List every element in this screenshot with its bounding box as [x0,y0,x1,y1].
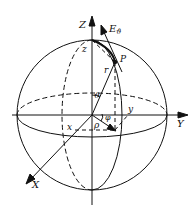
label-X-axis: X [31,179,40,190]
label-E-sub: ϑ [116,28,121,36]
label-Y-axis: Y [177,118,185,129]
label-theta: ϑ [94,91,100,100]
label-x: x [67,122,72,132]
x-axis [30,115,92,180]
spherical-coordinates-diagram: Z Eϑ z P r ϑ y φ ρ x Y X [0,0,195,215]
label-r: r [104,65,109,75]
label-rho: ρ [93,120,100,130]
z-axis-arrow [89,16,95,26]
label-phi: φ [105,113,111,122]
label-P: P [119,54,127,64]
label-Z-axis: Z [78,19,87,30]
e-theta-arrow [101,25,107,35]
label-z: z [81,44,87,54]
point-p [113,60,117,64]
label-E-theta: Eϑ [108,23,121,36]
label-y: y [127,104,134,114]
